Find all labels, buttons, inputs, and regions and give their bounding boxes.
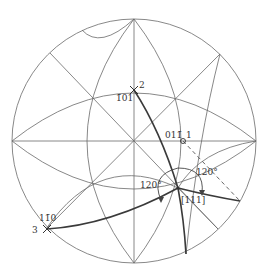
pole-3-number: 3	[32, 225, 38, 235]
pole-2-number: 2	[139, 80, 145, 90]
pole-2-index: 1̄01	[116, 93, 133, 103]
angle-label-left: 120°	[140, 180, 162, 190]
arrowhead-left-icon	[158, 197, 164, 203]
pole-1-index: 011̄	[165, 130, 182, 140]
pole-3-index: 11̄0	[39, 213, 56, 223]
pole-1-number: 1	[186, 130, 192, 140]
pole-111-marker	[177, 187, 180, 190]
stereogram: 2 1̄01 011̄ 1 11̄0 3 [111] 120° 120°	[0, 0, 264, 278]
angle-label-right: 120°	[196, 167, 218, 177]
pole-111-index: [111]	[181, 195, 205, 205]
